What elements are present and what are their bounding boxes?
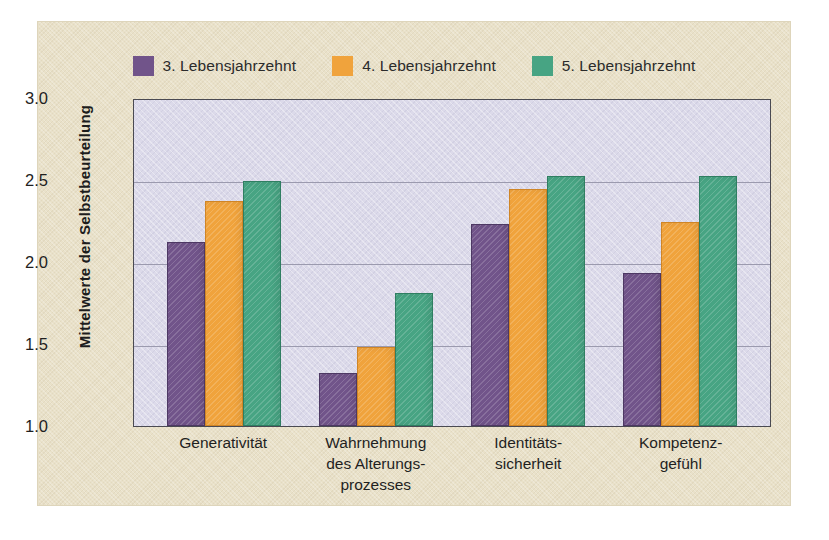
bar[interactable] — [471, 224, 509, 426]
x-axis-label: Generativität — [147, 432, 300, 495]
x-axis-label: Kompetenz-gefühl — [605, 432, 758, 495]
bar[interactable] — [547, 176, 585, 426]
bar-group — [604, 100, 756, 426]
bar-group — [452, 100, 604, 426]
legend-label: 5. Lebensjahrzehnt — [562, 57, 696, 75]
y-axis-tick-label: 1.0 — [0, 417, 48, 436]
x-axis-labels: GenerativitätWahrnehmungdes Alterungs-pr… — [133, 432, 771, 495]
bar[interactable] — [319, 373, 357, 426]
legend-swatch-icon — [332, 56, 353, 76]
chart-figure: 3. Lebensjahrzehnt4. Lebensjahrzehnt5. L… — [38, 22, 790, 505]
bar[interactable] — [205, 201, 243, 426]
bar-group — [148, 100, 300, 426]
y-axis-tick-label: 2.5 — [0, 171, 48, 190]
bar[interactable] — [167, 242, 205, 426]
x-axis-label-line: Kompetenz- — [605, 432, 758, 453]
bar[interactable] — [243, 181, 281, 426]
legend-label: 4. Lebensjahrzehnt — [362, 57, 496, 75]
x-axis-label-line: Identitäts- — [452, 432, 605, 453]
legend-item[interactable]: 4. Lebensjahrzehnt — [332, 56, 496, 76]
bar[interactable] — [661, 222, 699, 426]
y-axis-tick-label: 1.5 — [0, 335, 48, 354]
y-axis-title: Mittelwerte der Selbstbeurteilung — [76, 77, 93, 377]
bar-groups — [134, 100, 770, 426]
y-axis-tick-label: 2.0 — [0, 253, 48, 272]
x-axis-label-line: gefühl — [605, 453, 758, 474]
x-axis-label: Identitäts-sicherheit — [452, 432, 605, 495]
x-axis-label-line: sicherheit — [452, 453, 605, 474]
x-axis-label-line: Wahrnehmung — [300, 432, 453, 453]
bar[interactable] — [357, 347, 395, 426]
bar-group — [300, 100, 452, 426]
legend-swatch-icon — [532, 56, 553, 76]
legend-label: 3. Lebensjahrzehnt — [163, 57, 297, 75]
chart-legend: 3. Lebensjahrzehnt4. Lebensjahrzehnt5. L… — [38, 56, 790, 76]
legend-item[interactable]: 5. Lebensjahrzehnt — [532, 56, 696, 76]
x-axis-label: Wahrnehmungdes Alterungs-prozesses — [300, 432, 453, 495]
legend-item[interactable]: 3. Lebensjahrzehnt — [133, 56, 297, 76]
bar[interactable] — [699, 176, 737, 426]
legend-swatch-icon — [133, 56, 154, 76]
x-axis-label-line: des Alterungs- — [300, 453, 453, 474]
bar[interactable] — [623, 273, 661, 426]
bar[interactable] — [395, 293, 433, 426]
bar[interactable] — [509, 189, 547, 426]
plot-area — [133, 99, 771, 427]
x-axis-label-line: Generativität — [147, 432, 300, 453]
y-axis-tick-label: 3.0 — [0, 89, 48, 108]
x-axis-label-line: prozesses — [300, 474, 453, 495]
